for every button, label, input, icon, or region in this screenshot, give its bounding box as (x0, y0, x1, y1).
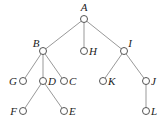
node-D (40, 78, 47, 85)
node-G (20, 78, 27, 85)
node-label-C: C (69, 75, 77, 87)
tree-nodes: ABHIGDCKJFEL (9, 1, 157, 117)
node-K (100, 78, 107, 85)
node-J (143, 78, 150, 85)
node-B (40, 48, 47, 55)
node-label-D: D (47, 75, 56, 87)
node-label-K: K (107, 75, 116, 87)
tree-diagram: ABHIGDCKJFEL (0, 0, 162, 126)
node-E (61, 108, 68, 115)
edge-D-F (23, 81, 43, 111)
node-label-L: L (150, 105, 157, 117)
node-label-E: E (68, 105, 76, 117)
node-A (81, 16, 88, 23)
tree-edges (23, 19, 146, 111)
edge-I-J (124, 51, 146, 81)
node-label-H: H (88, 45, 98, 57)
node-label-J: J (151, 75, 157, 87)
node-I (121, 48, 128, 55)
node-label-A: A (80, 1, 88, 13)
node-label-B: B (33, 37, 40, 49)
edge-B-G (23, 51, 43, 81)
node-F (20, 108, 27, 115)
node-label-I: I (127, 37, 133, 49)
edge-A-B (43, 19, 84, 51)
node-C (61, 78, 68, 85)
tree-canvas: ABHIGDCKJFEL (0, 0, 162, 126)
node-label-F: F (9, 105, 17, 117)
node-L (143, 108, 150, 115)
node-label-G: G (9, 75, 17, 87)
node-H (81, 48, 88, 55)
